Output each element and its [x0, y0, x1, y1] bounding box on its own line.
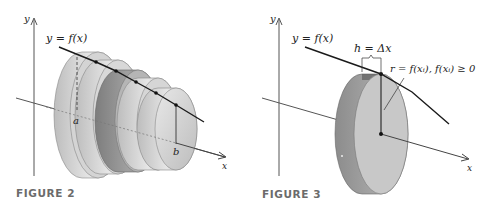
figure-3: y x h = Δx r = f(xᵢ), f(xᵢ) ≥ 0 y = f(x) [262, 13, 476, 194]
figure-2-caption: FIGURE 2 [16, 187, 75, 199]
curve-label: y = f(x) [291, 32, 333, 45]
figure-canvas: y x [0, 0, 488, 214]
figure-3-caption: FIGURE 3 [262, 188, 321, 200]
sample-point [154, 91, 158, 95]
center-point [379, 132, 383, 136]
disk [335, 74, 408, 194]
sample-point [94, 60, 98, 64]
b-label: b [173, 146, 179, 157]
sample-point [134, 80, 138, 84]
radius-label: r = f(xᵢ), f(xᵢ) ≥ 0 [390, 63, 476, 74]
sample-point [174, 103, 178, 107]
y-axis-label: y [269, 13, 276, 24]
figure-2: y x [16, 13, 227, 178]
x-axis-label: x [467, 163, 472, 173]
height-brace [362, 55, 381, 72]
x-axis-label: x [222, 161, 227, 171]
sample-point [114, 69, 118, 73]
curve-label: y = f(x) [45, 32, 87, 45]
y-axis-label: y [23, 13, 30, 24]
height-label: h = Δx [354, 42, 392, 55]
a-label: a [73, 115, 79, 126]
